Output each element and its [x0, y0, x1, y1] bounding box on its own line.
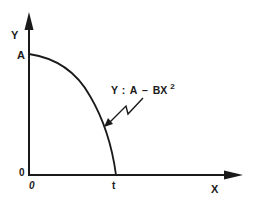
y-intercept-label: A: [17, 49, 25, 61]
y-axis-arrow-icon: [25, 12, 34, 30]
y-axis-label: Y: [11, 29, 19, 41]
leader-arrow-icon: [104, 118, 113, 127]
origin-x-label: 0: [29, 180, 35, 191]
leader-line: [110, 98, 143, 122]
origin-y-label: 0: [19, 167, 25, 178]
svg-text:Y : A –: Y : A – BX 2: [111, 82, 175, 96]
x-intercept-label: t: [112, 180, 116, 191]
graph-diagram: Y A 0 0 t X Y : A – BX 2: [0, 0, 254, 199]
x-axis-label: X: [211, 183, 219, 195]
parabola-curve: [29, 54, 116, 175]
x-axis-arrow-icon: [224, 171, 243, 180]
equation-label: Y : A – BX 2: [111, 82, 175, 96]
